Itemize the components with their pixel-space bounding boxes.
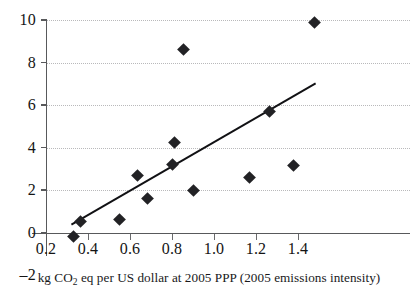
caption-text-before: kg CO [38, 270, 73, 285]
caption-subscript: 2 [73, 277, 78, 287]
trend-line [72, 84, 315, 224]
trendline-svg [0, 0, 418, 264]
x-axis-caption: kg CO2 eq per US dollar at 2005 PPP (200… [0, 271, 418, 286]
plot-area: –20246810 0.20.40.60.81.01.21.4 [0, 0, 418, 264]
scatter-chart-figure: –20246810 0.20.40.60.81.01.21.4 kg CO2 e… [0, 0, 418, 293]
caption-text-after: eq per US dollar at 2005 PPP (2005 emiss… [78, 270, 381, 285]
